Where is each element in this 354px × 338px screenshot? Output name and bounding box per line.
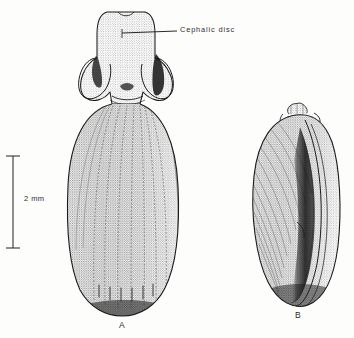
illustration-plate xyxy=(0,0,354,338)
cephalic-disc-label: Cephalic disc xyxy=(180,25,235,34)
figure-label-a: A xyxy=(119,320,125,330)
figure-label-b: B xyxy=(295,310,301,320)
scale-bar-label: 2 mm xyxy=(24,194,45,203)
